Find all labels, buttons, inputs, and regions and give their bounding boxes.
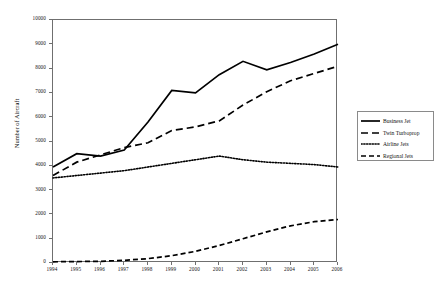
y-tick-mark xyxy=(49,189,52,190)
x-tick-mark xyxy=(218,262,219,265)
series-line xyxy=(53,44,338,167)
y-tick-label: 8000 xyxy=(6,65,46,70)
y-tick-label: 10000 xyxy=(6,16,46,21)
legend-line-swatch xyxy=(361,140,380,148)
legend-label: Airline Jets xyxy=(383,141,409,147)
x-tick-mark xyxy=(52,262,53,265)
line-chart: Number of Aircraft Business JetTwin Turb… xyxy=(0,0,440,291)
x-tick-label: 2006 xyxy=(322,267,352,272)
y-tick-label: 5000 xyxy=(6,138,46,143)
y-tick-mark xyxy=(49,68,52,69)
x-tick-mark xyxy=(100,262,101,265)
y-tick-label: 1000 xyxy=(6,235,46,240)
series-lines xyxy=(53,20,338,263)
x-tick-mark xyxy=(242,262,243,265)
x-tick-mark xyxy=(337,262,338,265)
y-tick-mark xyxy=(49,165,52,166)
y-tick-label: 9000 xyxy=(6,41,46,46)
y-tick-mark xyxy=(49,238,52,239)
y-tick-label: 4000 xyxy=(6,162,46,167)
legend-line-swatch xyxy=(361,152,380,160)
x-tick-mark xyxy=(171,262,172,265)
x-tick-mark xyxy=(123,262,124,265)
legend-item[interactable]: Airline Jets xyxy=(361,139,430,149)
y-tick-mark xyxy=(49,141,52,142)
x-tick-mark xyxy=(195,262,196,265)
y-tick-mark xyxy=(49,43,52,44)
y-axis-title: Number of Aircraft xyxy=(13,84,20,164)
legend-label: Regional Jets xyxy=(383,153,413,159)
plot-area xyxy=(52,19,337,262)
y-tick-mark xyxy=(49,213,52,214)
legend-item[interactable]: Twin Turboprop xyxy=(361,128,430,138)
y-tick-mark xyxy=(49,116,52,117)
y-tick-label: 7000 xyxy=(6,89,46,94)
legend-label: Twin Turboprop xyxy=(383,130,419,136)
legend-label: Business Jet xyxy=(383,118,411,124)
x-tick-mark xyxy=(76,262,77,265)
y-tick-mark xyxy=(49,92,52,93)
chart-legend: Business JetTwin TurbopropAirline JetsRe… xyxy=(357,111,434,161)
x-tick-mark xyxy=(313,262,314,265)
series-line xyxy=(53,220,338,262)
legend-item[interactable]: Regional Jets xyxy=(361,151,430,161)
x-tick-mark xyxy=(147,262,148,265)
y-tick-label: 3000 xyxy=(6,187,46,192)
y-tick-label: 6000 xyxy=(6,114,46,119)
y-tick-label: 2000 xyxy=(6,211,46,216)
y-tick-mark xyxy=(49,19,52,20)
y-tick-label: 0 xyxy=(6,259,46,264)
legend-item[interactable]: Business Jet xyxy=(361,116,430,126)
legend-line-swatch xyxy=(361,117,380,125)
legend-line-swatch xyxy=(361,129,380,137)
series-line xyxy=(53,156,338,178)
x-tick-mark xyxy=(266,262,267,265)
x-tick-mark xyxy=(290,262,291,265)
